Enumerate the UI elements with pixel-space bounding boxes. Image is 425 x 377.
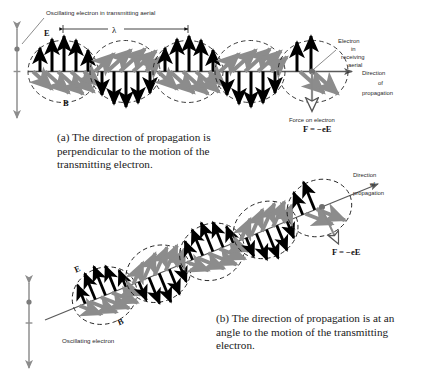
panel-b-direction-label-2: of [370,181,375,187]
panel-a-leader-line [22,18,44,44]
panel-a-lobe-3 [153,36,225,103]
panel-a-oscillating-electron-arrow [14,29,21,118]
panel-b-propagation-axis [45,184,378,320]
panel-a: Oscillating electron in transmitting aer… [14,9,394,134]
panel-a-wavelength-marker: λ [63,23,188,35]
panel-a-receiving-label-1: Electron [338,38,360,44]
panel-a-receiving-label-4: aerial [348,62,362,68]
panel-b-oscillating-electron-arrow [26,283,33,368]
panel-b-direction-label-1: Direction [353,172,376,178]
panel-a-lobe-4 [215,41,287,108]
panel-b-direction-label-3: propagation [353,190,384,196]
panel-b-oscillating-label: Oscillating electron [62,337,115,344]
panel-b-lobe-4 [225,191,309,271]
panel-a-direction-label-1: Direction [362,70,385,76]
panel-a-wavelength-label: λ [112,25,117,35]
panel-b-B-label: B [116,317,125,328]
caption-a: (a) The direction of propagation is perp… [57,131,247,172]
panel-a-B-label: B [63,99,69,108]
panel-a-lobe-2 [90,41,162,108]
panel-a-receiving-label-3: receiving [341,54,365,60]
panel-a-E-label: E [44,29,50,38]
panel-a-lobe-1 [28,36,100,103]
panel-b-force-formula: F = −eE [332,247,361,257]
caption-b: (b) The direction of propagation is at a… [216,312,416,353]
panel-a-receiving-label-2: in [351,46,356,52]
panel-a-oscillating-label: Oscillating electron in transmitting aer… [46,9,155,16]
panel-a-direction-label-3: propagation [362,90,393,96]
panel-a-direction-label-2: of [378,80,383,86]
panel-a-receiving-leader [314,50,336,69]
panel-b-E-label: E [73,264,82,275]
panel-a-force-formula: F = −eE [303,124,332,134]
panel-a-force-label: Force on electron [289,117,335,123]
